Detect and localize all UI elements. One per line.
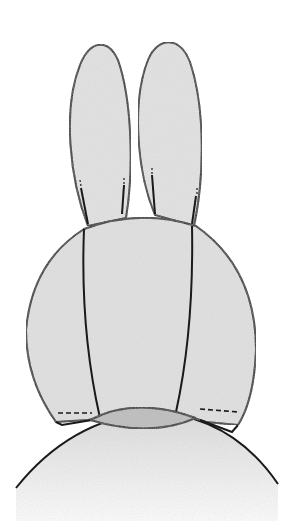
bunny-illustration bbox=[0, 0, 296, 521]
left-ear bbox=[70, 45, 131, 226]
right-ear bbox=[138, 42, 202, 226]
diagram-canvas bbox=[0, 0, 296, 521]
head-shape bbox=[26, 218, 256, 432]
